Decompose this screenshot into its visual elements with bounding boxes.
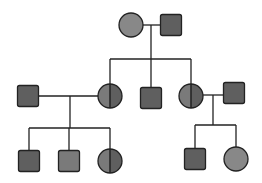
female-circle-g3-daughter-1 bbox=[98, 149, 122, 173]
square-symbol bbox=[59, 151, 80, 172]
circle-left-half bbox=[179, 84, 191, 108]
circle-left-half bbox=[98, 149, 110, 173]
square-symbol bbox=[185, 149, 206, 170]
female-circle-g2-daughter-2 bbox=[179, 84, 203, 108]
female-circle-g3-daughter-2 bbox=[224, 147, 248, 171]
circle-symbol bbox=[119, 13, 143, 37]
female-circle-g2-daughter-1 bbox=[98, 84, 122, 108]
square-symbol bbox=[161, 15, 182, 36]
circle-symbol bbox=[224, 147, 248, 171]
square-symbol bbox=[19, 151, 40, 172]
circle-right-half bbox=[110, 149, 122, 173]
individuals bbox=[18, 13, 249, 173]
male-square-g2-spouse-left bbox=[18, 86, 39, 107]
square-symbol bbox=[141, 88, 162, 109]
male-square-g3-son-2 bbox=[59, 151, 80, 172]
female-circle-g1-female bbox=[119, 13, 143, 37]
male-square-g3-son-1 bbox=[19, 151, 40, 172]
relationship-lines bbox=[29, 25, 236, 150]
circle-right-half bbox=[191, 84, 203, 108]
circle-left-half bbox=[98, 84, 110, 108]
male-square-g2-spouse-right bbox=[224, 83, 245, 104]
male-square-g1-male bbox=[161, 15, 182, 36]
square-symbol bbox=[18, 86, 39, 107]
square-symbol bbox=[224, 83, 245, 104]
male-square-g3-son-3 bbox=[185, 149, 206, 170]
circle-right-half bbox=[110, 84, 122, 108]
male-square-g2-son bbox=[141, 88, 162, 109]
pedigree-chart bbox=[0, 0, 262, 183]
